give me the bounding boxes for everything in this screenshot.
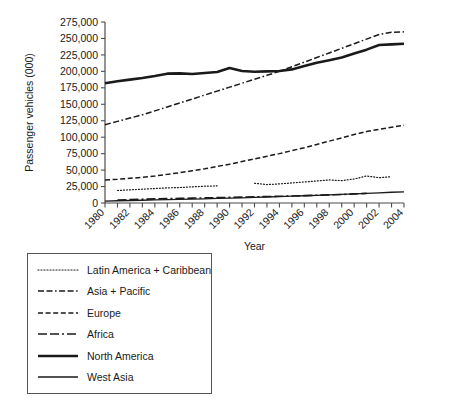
legend-swatch-dashed-long-icon: [37, 328, 79, 340]
series-line: [105, 32, 404, 125]
x-axis-tick-label: 1980: [81, 206, 106, 231]
y-axis-tick-label: 225,000: [60, 49, 98, 61]
y-axis-tick-label: 200,000: [60, 65, 98, 77]
x-axis-tick-label: 1996: [281, 206, 306, 231]
legend-item: Asia + Pacific: [28, 281, 211, 302]
y-axis-tick-label: 250,000: [60, 32, 98, 44]
x-axis-tick-label: 1986: [156, 206, 181, 231]
y-axis-tick-label: 50,000: [66, 164, 98, 176]
legend-item-label: Europe: [87, 307, 121, 319]
x-axis-tick-label: 2004: [380, 206, 405, 231]
y-axis-tick-label: 275,000: [60, 16, 98, 28]
y-axis-title: Passenger vehicles (000): [23, 53, 35, 171]
y-axis-tick-label: 175,000: [60, 81, 98, 93]
series-line: [105, 44, 404, 83]
y-axis-tick-label: 25,000: [66, 180, 98, 192]
x-axis-tick-label: 1994: [256, 206, 281, 231]
x-axis-tick-label: 1992: [231, 206, 256, 231]
series-line: [255, 176, 392, 185]
legend-swatch-solid-thin-icon: [37, 371, 79, 383]
series-line: [117, 186, 217, 191]
x-axis-tick-label: 2000: [331, 206, 356, 231]
legend: Latin America + CaribbeanAsia + PacificE…: [27, 253, 212, 394]
legend-item-label: West Asia: [87, 371, 134, 383]
legend-item-label: Africa: [87, 328, 114, 340]
line-chart-svg: 025,00050,00075,000100,000125,000150,000…: [0, 0, 471, 260]
x-axis-tick-label: 1988: [181, 206, 206, 231]
x-axis-tick-label: 2002: [355, 206, 380, 231]
legend-item: Africa: [28, 324, 211, 345]
y-axis-tick-label: 75,000: [66, 147, 98, 159]
x-axis-title: Year: [244, 240, 266, 252]
legend-item: Europe: [28, 302, 211, 323]
y-axis: 025,00050,00075,000100,000125,000150,000…: [60, 16, 105, 209]
legend-swatch-solid-thick-icon: [37, 350, 79, 362]
series-line: [105, 125, 404, 180]
y-axis-tick-label: 100,000: [60, 131, 98, 143]
legend-swatch-dashdot-icon: [37, 285, 79, 297]
x-axis-tick-label: 1998: [306, 206, 331, 231]
y-axis-tick-label: 150,000: [60, 98, 98, 110]
chart-container: 025,00050,00075,000100,000125,000150,000…: [0, 0, 471, 401]
legend-swatch-dotted-icon: [37, 264, 79, 276]
series-line: [105, 192, 404, 201]
y-axis-tick-label: 125,000: [60, 114, 98, 126]
legend-item-label: North America: [87, 350, 154, 362]
legend-item: North America: [28, 345, 211, 366]
x-axis-tick-label: 1990: [206, 206, 231, 231]
plot-area: 025,00050,00075,000100,000125,000150,000…: [0, 0, 471, 260]
x-axis-tick-label: 1982: [106, 206, 131, 231]
legend-swatch-dashed-short-icon: [37, 307, 79, 319]
x-axis-tick-label: 1984: [131, 206, 156, 231]
legend-item-label: Asia + Pacific: [87, 285, 150, 297]
legend-item: Latin America + Caribbean: [28, 259, 211, 280]
legend-list: Latin America + CaribbeanAsia + PacificE…: [28, 254, 211, 393]
legend-item: West Asia: [28, 367, 211, 388]
data-series-group: [105, 32, 404, 201]
legend-item-label: Latin America + Caribbean: [87, 264, 211, 276]
x-axis: 1980198219841986198819901992199419961998…: [81, 203, 405, 231]
